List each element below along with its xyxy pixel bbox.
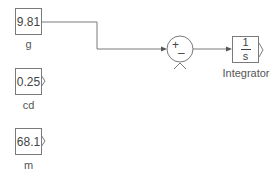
integrator-output-port-icon xyxy=(259,43,263,57)
integrator-denominator: s xyxy=(243,51,249,62)
constant-value-m: 68.1 xyxy=(17,135,40,149)
constant-block-m[interactable]: 68.1 xyxy=(15,128,42,155)
transfer-function: 1 s xyxy=(241,37,251,62)
block-label-g: g xyxy=(15,38,42,50)
sum-block[interactable]: + – xyxy=(167,36,193,62)
integrator-numerator: 1 xyxy=(242,37,248,48)
constant-value-cd: 0.25 xyxy=(17,75,40,89)
block-label-m: m xyxy=(15,159,42,171)
signal-line-g-to-sum xyxy=(41,22,163,49)
block-label-cd: cd xyxy=(15,99,42,111)
integrator-block[interactable]: 1 s xyxy=(232,36,259,63)
constant-block-cd[interactable]: 0.25 xyxy=(15,68,42,95)
constant-block-g[interactable]: 9.81 xyxy=(15,8,42,35)
constant-value-g: 9.81 xyxy=(17,15,40,29)
block-label-integrator: Integrator xyxy=(216,67,276,79)
sum-sign-minus: – xyxy=(178,46,185,60)
sum-bottom-port-icon xyxy=(174,63,186,69)
